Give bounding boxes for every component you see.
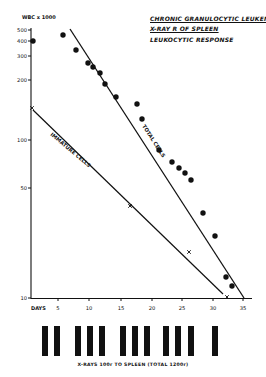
x-axis-label: DAYS (31, 305, 46, 311)
xray-dose-bar (120, 326, 126, 356)
xray-footer-label: X-RAYS 100r TO SPLEEN (TOTAL 1200r) (0, 362, 266, 367)
y-tick-label: 50 (20, 185, 27, 191)
total-cells-point (212, 233, 217, 238)
x-tick-label: 5 (56, 305, 59, 311)
total-cells-point (182, 170, 187, 175)
total-cells-trend-line (70, 29, 244, 298)
xray-dose-bar (87, 326, 93, 356)
x-tick-label: 35 (240, 305, 247, 311)
xray-dose-bars (42, 326, 218, 356)
total-cells-point (73, 47, 78, 52)
trend-lines (33, 29, 244, 298)
immature-cells-label: IMMATURE CELLS (49, 131, 92, 168)
total-cells-point (30, 38, 35, 43)
immature-cells-points (30, 106, 229, 299)
total-cells-point (90, 64, 95, 69)
total-cells-point (113, 94, 118, 99)
xray-dose-bar (188, 326, 194, 356)
xray-dose-bar (144, 326, 150, 356)
total-cells-point (102, 81, 107, 86)
xray-dose-bar (132, 326, 138, 356)
x-tick-label: 10 (86, 305, 93, 311)
y-tick-label: 200 (17, 77, 27, 83)
total-cells-point (139, 116, 144, 121)
xray-dose-bar (54, 326, 60, 356)
total-cells-point (223, 274, 228, 279)
xray-dose-bar (175, 326, 181, 356)
immature-cells-point (187, 250, 191, 254)
y-tick-label: 500 (17, 27, 27, 33)
total-cells-point (176, 165, 181, 170)
xray-dose-bar (42, 326, 48, 356)
x-tick-label: 20 (149, 305, 156, 311)
x-ticks: 5101520253035 (56, 298, 246, 311)
total-cells-point (188, 177, 193, 182)
total-cells-point (229, 283, 234, 288)
total-cells-point (97, 70, 102, 75)
total-cells-point (169, 159, 174, 164)
total-cells-label: TOTAL CELLS (141, 123, 167, 158)
total-cells-point (134, 101, 139, 106)
xray-dose-bar (75, 326, 81, 356)
plot-area: 5004003002001005010 5101520253035 TOTAL … (0, 0, 266, 377)
y-tick-label: 100 (17, 137, 27, 143)
y-tick-label: 10 (20, 295, 27, 301)
total-cells-point (200, 210, 205, 215)
total-cells-point (85, 60, 90, 65)
x-tick-label: 30 (210, 305, 217, 311)
series-labels: TOTAL CELLS IMMATURE CELLS (49, 123, 167, 168)
xray-dose-bar (212, 326, 218, 356)
y-tick-label: 300 (17, 53, 27, 59)
total-cells-point (60, 32, 65, 37)
x-tick-label: 25 (179, 305, 186, 311)
xray-dose-bar (163, 326, 169, 356)
y-ticks: 5004003002001005010 (17, 27, 31, 301)
total-cells-points (30, 32, 234, 288)
xray-dose-bar (99, 326, 105, 356)
y-tick-label: 400 (17, 38, 27, 44)
x-tick-label: 15 (118, 305, 125, 311)
